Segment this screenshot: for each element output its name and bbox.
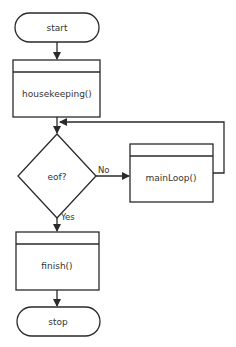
stop-terminal: stop (17, 307, 100, 336)
stop-label: stop (48, 317, 68, 327)
start-terminal: start (15, 13, 99, 42)
flowchart: start housekeeping() eof? No mainLoop() … (0, 0, 236, 347)
yes-label: Yes (60, 212, 75, 222)
housekeeping-process: housekeeping() (13, 60, 100, 117)
eof-decision: eof? (18, 134, 96, 218)
mainloop-label: mainLoop() (145, 173, 196, 183)
no-label: No (98, 165, 110, 175)
finish-label: finish() (41, 261, 72, 271)
mainloop-process: mainLoop() (130, 144, 213, 202)
finish-process: finish() (16, 232, 99, 290)
housekeeping-label: housekeeping() (22, 89, 92, 99)
start-label: start (47, 23, 68, 33)
eof-label: eof? (48, 172, 67, 182)
